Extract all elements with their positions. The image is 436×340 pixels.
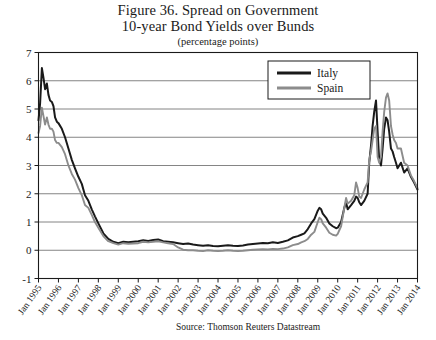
series-line-spain [39,93,418,251]
x-axis-labels-group: Jan 1995Jan 1996Jan 1997Jan 1998Jan 1999… [16,283,423,317]
y-axis-tick-label: 3 [26,160,32,172]
chart-legend: ItalySpain [268,61,370,99]
y-axis-tick-label: 6 [26,75,32,87]
y-axis-tick-label: 2 [26,188,32,200]
figure-container: Figure 36. Spread on Government 10-year … [0,0,436,340]
y-axis-tick-label: 0 [26,244,32,256]
source-note: Source: Thomson Reuters Datastream [116,322,320,332]
y-axis-tick-label: 4 [26,131,32,143]
legend-label-spain: Spain [317,82,343,95]
y-axis-tick-label: 1 [26,216,32,228]
y-axis-tick-label: -1 [22,273,31,285]
y-axis-labels-group: -101234567 [22,47,32,285]
legend-label-italy: Italy [317,67,338,80]
y-axis-ticks-group [35,53,39,279]
source-note-row: Source: Thomson Reuters Datastream [0,322,436,332]
line-chart: -101234567 Jan 1995Jan 1996Jan 1997Jan 1… [0,0,436,340]
x-axis-ticks-group [39,279,418,283]
y-axis-tick-label: 5 [26,103,32,115]
y-axis-tick-label: 7 [26,47,32,59]
